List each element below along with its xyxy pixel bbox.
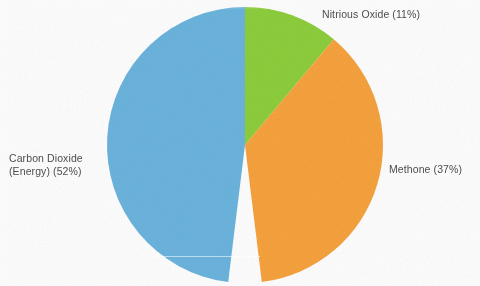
pie-chart-figure: Carbon Dioxide (Energy) (52%) Nitrious O…: [0, 0, 480, 286]
pie-label-methone: Methone (37%): [389, 163, 462, 176]
pie-chart-canvas: [0, 0, 480, 286]
pie-label-carbon-dioxide: Carbon Dioxide (Energy) (52%): [9, 152, 105, 178]
pie-chart-svg: [0, 0, 480, 286]
pie-label-nitrious-oxide: Nitrious Oxide (11%): [322, 8, 420, 21]
pie-slice-carbon-dioxide: [107, 7, 245, 282]
